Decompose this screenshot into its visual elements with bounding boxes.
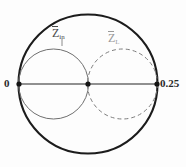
input-impedance-label: Zin bbox=[52, 27, 65, 39]
axis-tick-label-right: 0.25 bbox=[160, 78, 179, 89]
origin-point-marker bbox=[16, 81, 21, 86]
load-impedance-label: ZL bbox=[108, 32, 120, 44]
zin-subscript: in bbox=[59, 33, 64, 41]
figure-canvas bbox=[0, 0, 186, 167]
midpoint-marker bbox=[85, 81, 90, 86]
endpoint-marker bbox=[154, 81, 159, 86]
zl-subscript: L bbox=[115, 38, 119, 46]
impedance-circle-figure: 0 0.25 Zin ZL bbox=[0, 0, 186, 167]
axis-tick-label-left: 0 bbox=[4, 78, 10, 89]
